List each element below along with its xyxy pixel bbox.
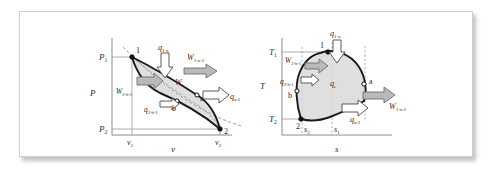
slide-frame: P1 P2 P v1 v2 v 1 2 a b q1-a W1-a-2 We q… — [19, 11, 473, 157]
ts-ann-q-a-2: qa-2 — [350, 115, 361, 125]
ts-ann-w-2-b-1: W2-b-1 — [285, 56, 302, 66]
ts-ytick-t2: T2 — [269, 114, 277, 125]
ts-diagram-svg: T1 T2 T s2 s1 s 1 2 a b q1-a W2-b-1 q2-b… — [20, 12, 472, 156]
ts-ytick-t1: T1 — [269, 47, 277, 58]
ts-diagram-panel: T1 T2 T s2 s1 s 1 2 a b q1-a W2-b-1 q2-b… — [20, 12, 472, 156]
ts-ann-w-1-a-2: W1-a-2 — [389, 102, 407, 112]
ts-state-point-b — [295, 89, 299, 93]
ts-ann-q-2-b-1: q2-b-1 — [280, 77, 294, 87]
ts-xtick-s2: s2 — [304, 125, 310, 135]
ts-state-point-a — [362, 82, 366, 86]
ts-label-state-a: a — [369, 77, 373, 86]
ts-yaxis-label: T — [260, 81, 266, 91]
ts-state-point-2 — [299, 117, 304, 122]
ts-xtick-s1: s1 — [334, 125, 340, 135]
ts-xaxis-label: s — [335, 144, 339, 154]
ts-label-state-2: 2 — [296, 122, 300, 131]
ts-arrow-w-1-a-2 — [363, 87, 395, 103]
ts-ann-q-1-a: q1-a — [330, 29, 341, 39]
ts-label-state-1: 1 — [320, 41, 324, 50]
screenshot-root: P1 P2 P v1 v2 v 1 2 a b q1-a W1-a-2 We q… — [0, 0, 492, 173]
ts-label-state-b: b — [288, 91, 292, 100]
